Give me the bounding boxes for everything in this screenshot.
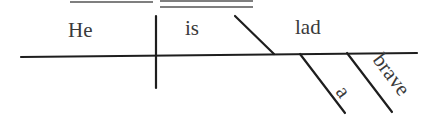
subject-word: He	[68, 18, 93, 42]
complement-word: lad	[295, 15, 321, 39]
modifier-word-a: a	[331, 81, 356, 103]
modifier-word-brave: brave	[368, 49, 415, 101]
complement-divider	[235, 16, 274, 54]
verb-word: is	[185, 16, 199, 40]
baseline	[21, 53, 417, 57]
modifier-line-a	[300, 54, 345, 113]
sentence-diagram: He is lad a brave	[0, 0, 439, 132]
